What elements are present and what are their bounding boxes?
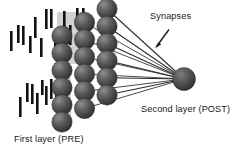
post-layer-sphere	[173, 68, 196, 91]
pre-layer-sphere	[74, 98, 94, 118]
spike-bar	[34, 17, 37, 38]
neural-network-diagram: Synapses Second layer (POST) First layer…	[0, 0, 242, 149]
spike-bar	[31, 84, 34, 104]
first-layer-label: First layer (PRE)	[14, 134, 84, 144]
spike-bar	[29, 36, 32, 53]
spike-bar	[36, 93, 39, 114]
spike-bar	[10, 31, 13, 51]
pre-layer-sphere	[97, 85, 117, 105]
figure-container: Synapses Second layer (POST) First layer…	[0, 0, 242, 149]
pre-layer-sphere	[52, 112, 72, 132]
synapses-label: Synapses	[150, 11, 191, 21]
spike-bar	[41, 80, 44, 95]
spike-bar	[45, 86, 48, 105]
spike-bar	[19, 97, 22, 117]
second-layer-label: Second layer (POST)	[141, 104, 230, 114]
spike-bar	[50, 9, 53, 28]
spike-bar	[22, 26, 25, 45]
spike-bar	[40, 38, 43, 57]
spike-bar	[45, 9, 48, 29]
spike-bar	[26, 83, 29, 102]
spike-bar	[17, 25, 20, 43]
